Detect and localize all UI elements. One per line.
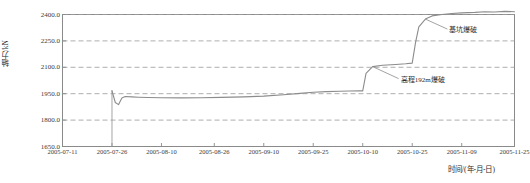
y-tick-label: 2400.0 bbox=[14, 11, 60, 19]
x-tick-label: 2005-09-25 bbox=[298, 148, 328, 155]
x-axis-title: 时间/(年-月-日) bbox=[0, 163, 515, 174]
y-tick-label: 1950.0 bbox=[14, 90, 60, 98]
x-tick-label: 2005-08-26 bbox=[199, 148, 229, 155]
x-tick-label: 2005-11-25 bbox=[499, 148, 529, 155]
x-tick-label: 2005-10-25 bbox=[397, 148, 427, 155]
annotation-elevation-192m-blasting: 高程192m爆破 bbox=[401, 74, 445, 84]
x-tick-label: 2005-09-10 bbox=[249, 148, 279, 155]
annotation-leader-line-2 bbox=[373, 67, 399, 79]
annotation-leader-line-1 bbox=[425, 19, 447, 29]
x-tick-label: 2005-08-10 bbox=[146, 148, 176, 155]
y-tick-label: 2250.0 bbox=[14, 37, 60, 45]
annotation-excavation-blasting: 基坑爆破 bbox=[449, 24, 477, 34]
y-axis-tick-marks bbox=[63, 15, 67, 147]
x-axis-tick-labels: 2005-07-112005-07-262005-08-102005-08-26… bbox=[0, 148, 529, 162]
x-axis-tick-marks bbox=[63, 143, 515, 147]
x-tick-label: 2005-11-09 bbox=[447, 148, 477, 155]
axis-frame bbox=[63, 15, 515, 147]
x-tick-label: 2005-07-26 bbox=[97, 148, 127, 155]
y-tick-label: 2100.0 bbox=[14, 63, 60, 71]
x-tick-label: 2005-10-10 bbox=[348, 148, 378, 155]
gridlines bbox=[63, 15, 515, 121]
x-tick-label: 2005-07-11 bbox=[47, 148, 77, 155]
y-tick-label: 1800.0 bbox=[14, 116, 60, 124]
